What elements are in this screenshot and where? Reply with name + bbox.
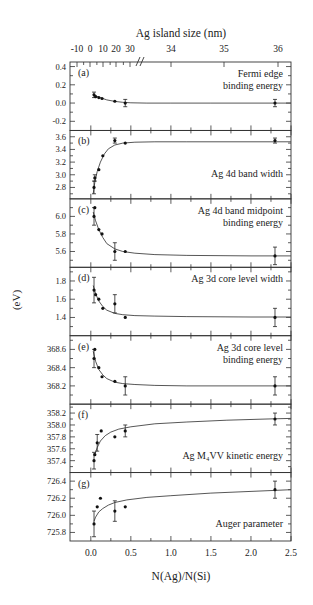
- x-tick-label: 2.0: [245, 548, 257, 558]
- y-tick-label: 726.0: [47, 510, 66, 520]
- y-tick-label: 358.0: [47, 420, 66, 430]
- data-point: [273, 417, 276, 420]
- panel-label: Fermi edge: [238, 68, 284, 79]
- data-point: [97, 96, 100, 99]
- panel-tag: (b): [78, 135, 90, 147]
- fit-curve: [93, 286, 291, 318]
- top-tick-label: 10: [98, 44, 108, 54]
- data-point: [113, 435, 116, 438]
- y-tick-label: 5.6: [55, 246, 66, 256]
- panel-label: Ag 4d band midpoint: [198, 205, 283, 216]
- data-point: [124, 505, 127, 508]
- data-point: [92, 186, 95, 189]
- panel-b: 2.83.03.23.43.6(b)Ag 4d band width: [55, 130, 291, 198]
- top-axis-title: Ag island size (nm): [136, 27, 227, 40]
- y-tick-label: 726.2: [47, 493, 66, 503]
- panel-label: Ag 3d core level: [217, 342, 284, 353]
- data-point: [93, 206, 96, 209]
- figure: Ag island size (nm) -100102030343536 -0.…: [0, 0, 313, 605]
- panel-tag: (d): [78, 272, 90, 284]
- data-point: [124, 142, 127, 145]
- y-tick-label: 6.0: [55, 211, 66, 221]
- x-tick-label: 1.0: [165, 548, 177, 558]
- top-tick-label: 0: [88, 44, 93, 54]
- y-axis-title: (eV): [10, 290, 23, 310]
- top-tick-label: 36: [273, 44, 283, 54]
- panel-tag: (c): [78, 204, 89, 216]
- y-tick-label: 1.8: [55, 276, 66, 286]
- data-point: [273, 488, 276, 491]
- top-tick-label: -10: [71, 44, 84, 54]
- panel-label: Ag 4d band width: [211, 168, 283, 179]
- data-point: [92, 459, 95, 462]
- data-point: [113, 302, 116, 305]
- panel-a: -0.20.00.20.4(a)Fermi edgebinding energy: [53, 62, 291, 131]
- data-point: [94, 293, 97, 296]
- x-tick-label: 2.5: [285, 548, 297, 558]
- top-tick-label: 35: [219, 44, 229, 54]
- x-tick-label: 1.5: [205, 548, 217, 558]
- y-tick-label: 1.6: [55, 294, 66, 304]
- data-point: [124, 384, 127, 387]
- y-tick-label: 3.6: [55, 132, 66, 142]
- data-point: [273, 101, 276, 104]
- y-tick-label: 0.4: [55, 62, 66, 72]
- top-tick-label: 20: [111, 44, 121, 54]
- panel-label: Ag 3d core level width: [191, 273, 283, 284]
- data-point: [96, 441, 99, 444]
- stacked-panel-chart: Ag island size (nm) -100102030343536 -0.…: [0, 0, 313, 605]
- y-tick-label: 368.6: [47, 344, 66, 354]
- panel-tag: (g): [78, 478, 90, 490]
- data-point: [113, 509, 116, 512]
- data-point: [113, 250, 116, 253]
- y-tick-label: 5.8: [55, 229, 66, 239]
- panel-tag: (f): [78, 409, 88, 421]
- y-tick-label: 357.4: [47, 456, 67, 466]
- panel-label: binding energy: [223, 217, 283, 228]
- data-point: [96, 505, 99, 508]
- data-point: [97, 228, 100, 231]
- panel-f: 357.4357.6357.8358.0358.2(f)Ag M₄VV kine…: [47, 404, 291, 472]
- panel-c: 5.65.86.0(c)Ag 4d band midpointbinding e…: [55, 199, 291, 267]
- panel-d: 1.41.61.8(d)Ag 3d core level width: [55, 267, 291, 335]
- y-tick-label: 726.4: [47, 476, 67, 486]
- y-tick-label: 3.4: [55, 144, 66, 154]
- panel-tag: (e): [78, 341, 89, 353]
- panel-frame: [70, 130, 291, 198]
- bottom-axis-title: N(Ag)/N(Si): [152, 570, 211, 583]
- fit-curve: [93, 94, 291, 103]
- data-point: [93, 176, 96, 179]
- y-tick-label: 357.6: [47, 444, 66, 454]
- bottom-axis: 0.00.51.01.52.02.5: [85, 548, 297, 558]
- data-point: [101, 154, 104, 157]
- panel-frame: [70, 473, 291, 541]
- panel-tag: (a): [78, 67, 89, 79]
- y-tick-label: 0.2: [55, 80, 66, 90]
- panel-g: 725.8726.0726.2726.4(g)Auger parameter: [47, 473, 291, 541]
- y-tick-label: 3.0: [55, 170, 66, 180]
- data-point: [124, 250, 127, 253]
- data-point: [113, 139, 116, 142]
- data-point: [113, 100, 116, 103]
- data-point: [92, 357, 95, 360]
- y-tick-label: 2.8: [55, 182, 66, 192]
- panel-e: 368.2368.4368.6(e)Ag 3d core levelbindin…: [47, 336, 291, 404]
- panel-label: binding energy: [223, 80, 283, 91]
- data-point: [100, 232, 103, 235]
- panel-label: binding energy: [223, 354, 283, 365]
- data-point: [273, 384, 276, 387]
- panel-label: Auger parameter: [216, 518, 284, 529]
- y-tick-label: 0.0: [55, 98, 66, 108]
- data-point: [100, 97, 103, 100]
- top-tick-label: 34: [166, 44, 176, 54]
- data-point: [97, 168, 100, 171]
- data-point: [92, 288, 95, 291]
- data-point: [100, 375, 103, 378]
- y-tick-label: 368.4: [47, 363, 67, 373]
- data-point: [273, 254, 276, 257]
- data-point: [97, 366, 100, 369]
- data-point: [92, 522, 95, 525]
- y-tick-label: 725.8: [47, 527, 66, 537]
- y-tick-label: 358.2: [47, 408, 66, 418]
- fit-curve: [94, 490, 291, 522]
